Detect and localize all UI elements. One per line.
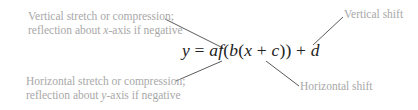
label-text: -axis if negative <box>106 89 180 101</box>
eq-a: a <box>209 40 218 60</box>
label-horizontal-stretch-line2: reflection about y-axis if negative <box>26 89 185 103</box>
eq-plus: + <box>252 40 271 60</box>
label-horizontal-stretch: Horizontal stretch or compression; refle… <box>26 75 185 102</box>
eq-y: y <box>182 40 190 60</box>
eq-d: d <box>311 40 320 60</box>
eq-plus: + <box>291 40 310 60</box>
label-vertical-shift: Vertical shift <box>344 8 403 22</box>
eq-x: x <box>244 40 252 60</box>
label-horizontal-stretch-line1: Horizontal stretch or compression; <box>26 75 185 89</box>
label-horizontal-shift: Horizontal shift <box>300 80 373 94</box>
label-vertical-stretch: Vertical stretch or compression; reflect… <box>28 10 183 37</box>
label-vertical-stretch-line2: reflection about x-axis if negative <box>28 24 183 38</box>
eq-close-parens: )) <box>279 40 291 60</box>
label-text: -axis if negative <box>108 24 182 36</box>
label-vertical-stretch-line1: Vertical stretch or compression; <box>28 10 183 24</box>
eq-equals: = <box>190 40 209 60</box>
label-text: reflection about <box>28 24 103 36</box>
eq-b: b <box>229 40 238 60</box>
label-text: reflection about <box>26 89 101 101</box>
transformation-equation: y = af(b(x + c)) + d <box>182 40 320 61</box>
leader-line-c <box>266 61 299 86</box>
